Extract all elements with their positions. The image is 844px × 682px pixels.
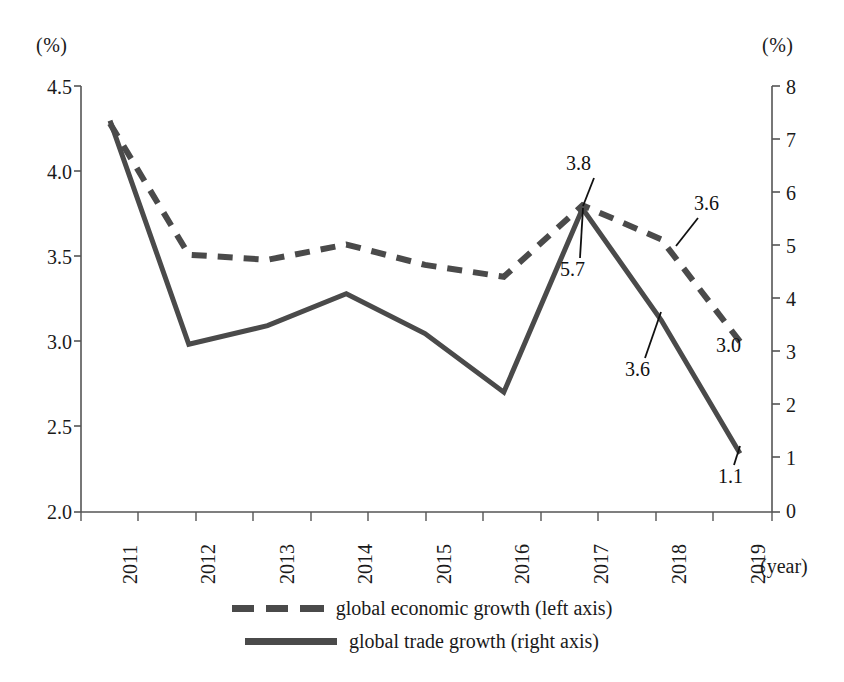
chart-container: (%) (%) 4.5 4.0 3.5 3.0 2.5 2.0 8 7 6 5 … xyxy=(0,0,844,682)
legend-swatch-dashed-icon xyxy=(232,605,324,612)
x-axis-label-2017: 2017 xyxy=(590,544,613,584)
legend-item-trade-growth: global trade growth (right axis) xyxy=(0,625,844,658)
x-axis-label-2013: 2013 xyxy=(276,544,299,584)
series-line-global-economic-growth xyxy=(110,124,740,342)
x-axis-label-2014: 2014 xyxy=(354,544,377,584)
x-axis-caption: (year) xyxy=(760,555,808,578)
x-axis-label-2011: 2011 xyxy=(119,545,142,584)
x-axis-label-2012: 2012 xyxy=(197,544,220,584)
x-axis-label-2015: 2015 xyxy=(433,544,456,584)
data-label-econ-2018: 3.6 xyxy=(694,192,719,215)
x-axis-label-2018: 2018 xyxy=(668,544,691,584)
data-label-trade-2019: 1.1 xyxy=(718,465,743,488)
x-axis-ticks xyxy=(81,512,772,521)
series-line-global-trade-growth xyxy=(110,121,740,454)
data-label-econ-2017: 3.8 xyxy=(566,152,591,175)
left-axis-ticks xyxy=(74,86,81,512)
legend-swatch-solid-icon xyxy=(245,638,337,645)
legend-label-economic-growth: global economic growth (left axis) xyxy=(336,597,613,620)
data-label-trade-2017: 5.7 xyxy=(560,258,585,281)
right-axis-ticks xyxy=(772,86,780,512)
legend-item-economic-growth: global economic growth (left axis) xyxy=(0,592,844,625)
chart-legend: global economic growth (left axis) globa… xyxy=(0,592,844,658)
x-axis-label-2016: 2016 xyxy=(511,544,534,584)
legend-label-trade-growth: global trade growth (right axis) xyxy=(349,630,599,653)
data-label-trade-2018: 3.6 xyxy=(625,358,650,381)
data-label-econ-2019: 3.0 xyxy=(716,334,741,357)
